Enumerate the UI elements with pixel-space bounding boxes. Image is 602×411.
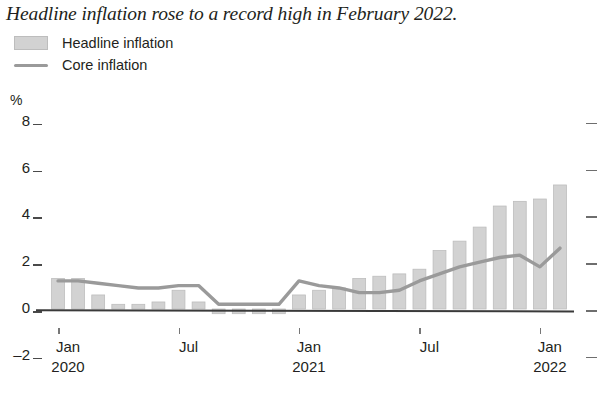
bar: [152, 302, 165, 309]
bar: [433, 251, 446, 310]
chart-plot-area: % 86420–2 Jan2020JulJan2021JulJan2022: [0, 0, 602, 411]
bar: [52, 279, 65, 309]
bar: [533, 199, 546, 309]
bar: [112, 304, 125, 309]
chart-canvas: [0, 0, 602, 411]
bar: [313, 290, 326, 309]
bar: [473, 227, 486, 309]
bar: [293, 295, 306, 309]
bar: [333, 288, 346, 309]
headline-inflation-bars: [52, 185, 567, 314]
baseline-stroke: [36, 310, 574, 311]
zero-baseline: [36, 310, 574, 311]
bar: [172, 290, 185, 309]
bar: [192, 302, 205, 309]
bar: [132, 304, 145, 309]
bar: [413, 269, 426, 309]
bar: [92, 295, 105, 309]
bar: [453, 241, 466, 309]
